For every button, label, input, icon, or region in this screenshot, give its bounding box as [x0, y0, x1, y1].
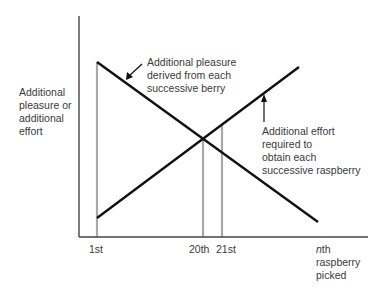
- annotation-line: derived from each: [147, 69, 236, 82]
- x-tick-20th: 20th: [189, 243, 209, 255]
- pleasure-annotation: Additional pleasure derived from each su…: [147, 56, 236, 95]
- pleasure-arrow-icon: [126, 64, 142, 80]
- y-axis-label-line: pleasure or: [19, 99, 72, 112]
- annotation-line: obtain each: [262, 151, 361, 164]
- y-axis-label-line: Additional: [19, 86, 72, 99]
- x-axis-label: nth raspberry picked: [316, 243, 360, 282]
- x-axis-label-line: picked: [316, 269, 360, 282]
- y-axis-label-line: additional: [19, 112, 72, 125]
- x-tick-1st: 1st: [89, 243, 103, 255]
- x-axis-label-line: nth: [316, 243, 360, 256]
- y-axis-label-line: effort: [19, 125, 72, 138]
- effort-annotation: Additional effort required to obtain eac…: [262, 125, 361, 177]
- annotation-line: successive berry: [147, 82, 236, 95]
- effort-arrow-icon: [261, 94, 267, 122]
- annotation-line: Additional pleasure: [147, 56, 236, 69]
- annotation-line: Additional effort: [262, 125, 361, 138]
- x-tick-21st: 21st: [216, 243, 236, 255]
- annotation-line: successive raspberry: [262, 164, 361, 177]
- x-axis-label-line: raspberry: [316, 256, 360, 269]
- annotation-line: required to: [262, 138, 361, 151]
- y-axis-label: Additional pleasure or additional effort: [19, 86, 72, 138]
- nth-suffix: th: [322, 243, 331, 255]
